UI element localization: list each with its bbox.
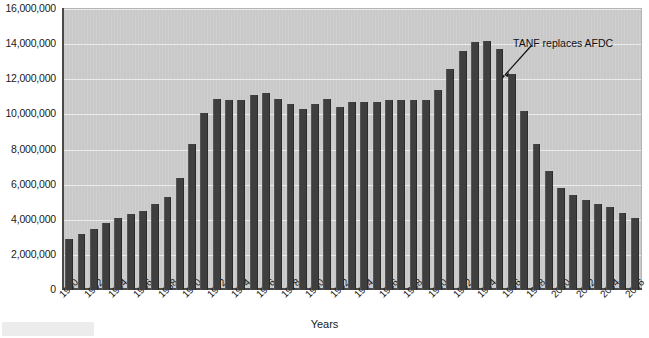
bar <box>114 218 122 290</box>
y-tick-label: 8,000,000 <box>11 143 56 155</box>
bar <box>631 218 639 290</box>
bar <box>78 234 86 290</box>
bar <box>237 100 245 290</box>
bar <box>348 102 356 290</box>
bar-chart-figure: 02,000,0004,000,0006,000,0008,000,00010,… <box>0 0 649 338</box>
bar <box>127 214 135 290</box>
bar <box>422 100 430 290</box>
bar <box>139 211 147 290</box>
y-tick-label: 12,000,000 <box>5 72 56 84</box>
bar <box>397 100 405 290</box>
bar <box>606 207 614 290</box>
bar <box>508 74 516 290</box>
bar <box>250 95 258 290</box>
bar <box>483 41 491 290</box>
bar <box>410 100 418 290</box>
bar <box>446 69 454 290</box>
bar <box>569 195 577 290</box>
bar <box>557 188 565 290</box>
bar <box>274 99 282 290</box>
bar <box>582 200 590 290</box>
bar <box>188 144 196 290</box>
annotation-arrow-icon <box>498 44 534 82</box>
bar <box>434 90 442 290</box>
y-tick-label: 6,000,000 <box>11 178 56 190</box>
bar <box>176 178 184 290</box>
y-axis: 02,000,0004,000,0006,000,0008,000,00010,… <box>0 0 60 290</box>
bar <box>102 223 110 290</box>
y-tick-label: 10,000,000 <box>5 107 56 119</box>
bar <box>360 102 368 290</box>
watermark-bar <box>2 322 94 336</box>
bar <box>299 109 307 290</box>
bar <box>496 49 504 290</box>
bar <box>225 100 233 290</box>
bar-series <box>63 9 641 290</box>
bar <box>520 111 528 290</box>
bar <box>385 100 393 290</box>
bar <box>545 171 553 290</box>
x-axis-title: Years <box>0 318 649 330</box>
bar <box>323 99 331 290</box>
bar <box>594 204 602 290</box>
plot-area <box>63 8 642 290</box>
bar <box>311 104 319 290</box>
bar <box>459 51 467 290</box>
y-tick-label: 4,000,000 <box>11 213 56 225</box>
bar <box>533 144 541 290</box>
y-tick-label: 14,000,000 <box>5 37 56 49</box>
bar <box>471 42 479 290</box>
bar <box>287 104 295 290</box>
bar <box>373 102 381 290</box>
bar <box>200 113 208 290</box>
bar <box>336 107 344 290</box>
bar <box>164 197 172 290</box>
bar <box>619 213 627 290</box>
bar <box>262 93 270 290</box>
bar <box>90 229 98 290</box>
bar <box>213 99 221 290</box>
bar <box>151 204 159 290</box>
y-tick-label: 16,000,000 <box>5 2 56 14</box>
bar <box>65 239 73 290</box>
y-tick-label: 2,000,000 <box>11 248 56 260</box>
